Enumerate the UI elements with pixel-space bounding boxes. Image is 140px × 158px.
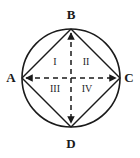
vertex-label-D: D <box>64 137 78 150</box>
geometry-figure: A B C D I II III IV <box>0 0 140 158</box>
region-label-iv: IV <box>76 84 98 94</box>
vertex-label-B: B <box>64 8 78 21</box>
vertex-label-A: A <box>4 71 18 84</box>
region-label-i: I <box>45 57 65 67</box>
region-label-iii: III <box>44 84 66 94</box>
region-label-ii: II <box>76 57 96 67</box>
vertex-label-C: C <box>122 71 136 84</box>
figure-canvas <box>0 0 140 158</box>
